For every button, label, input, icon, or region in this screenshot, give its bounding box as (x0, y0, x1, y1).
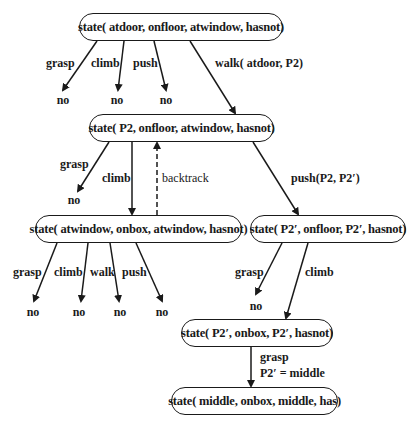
label-n3-push: push (122, 266, 147, 278)
fail-leaf: no (250, 300, 263, 312)
fail-leaf: no (156, 306, 169, 318)
label-n3-grasp: grasp (13, 266, 42, 278)
label-n1-grasp: grasp (46, 57, 75, 69)
fail-leaf: no (27, 306, 40, 318)
fail-leaf: no (73, 306, 86, 318)
label-n1-climb: climb (91, 57, 120, 69)
label-n2-push: push(P2, P2′) (291, 172, 360, 184)
label-n2-grasp: grasp (60, 158, 89, 170)
state-node-goal: state( middle, onbox, middle, has) (171, 387, 338, 415)
state-node-at-p2prime: state( P2′, onfloor, P2′, hasnot) (250, 215, 406, 243)
label-n5-grasp: grasp (260, 351, 289, 363)
fail-leaf: no (114, 306, 127, 318)
fail-leaf: no (57, 94, 70, 106)
fail-leaf: no (111, 94, 124, 106)
fail-leaf: no (160, 94, 173, 106)
state-node-onbox-atwindow: state( atwindow, onbox, atwindow, hasnot… (35, 215, 242, 243)
label-n1-walk: walk( atdoor, P2) (215, 57, 303, 69)
label-n4-grasp: grasp (235, 266, 264, 278)
label-n4-climb: climb (305, 266, 334, 278)
label-n3-walk: walk (90, 266, 115, 278)
label-n1-push: push (133, 57, 158, 69)
edge-n1-walk (190, 41, 235, 113)
fail-leaf: no (68, 194, 81, 206)
label-backtrack: backtrack (162, 172, 209, 184)
label-n5-binding: P2′ = middle (260, 367, 325, 379)
label-n3-climb: climb (54, 266, 83, 278)
edge-n4-climb (286, 243, 308, 318)
state-node-onbox-p2prime: state( P2′, onbox, P2′, hasnot) (181, 319, 333, 347)
state-node-initial: state( atdoor, onfloor, atwindow, hasnot… (79, 13, 283, 41)
label-n2-climb: climb (102, 172, 131, 184)
state-node-at-p2: state( P2, onfloor, atwindow, hasnot) (89, 114, 274, 142)
